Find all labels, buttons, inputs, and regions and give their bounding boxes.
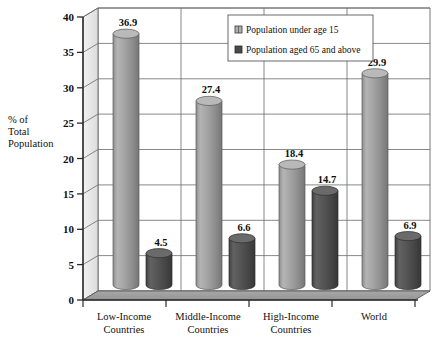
category-label-line: Countries (188, 324, 229, 335)
legend-label: Population aged 65 and above (246, 45, 361, 55)
bar-value-label: 6.9 (403, 220, 416, 231)
bar-under15-world[interactable] (362, 69, 388, 290)
bar-under15-low-income[interactable] (113, 29, 139, 290)
bar-over65-world[interactable] (395, 232, 421, 290)
bar-value-label: 4.5 (154, 237, 167, 248)
bar-over65-high-income[interactable] (312, 186, 338, 289)
legend-item-over-65[interactable]: Population aged 65 and above (235, 45, 361, 55)
bar-value-label: 14.7 (318, 174, 336, 185)
y-tick-label: 40 (63, 11, 75, 23)
y-tick-label: 0 (69, 294, 75, 306)
category-label-line: Middle-Income (175, 311, 241, 322)
category-label-line: Countries (271, 324, 312, 335)
y-tick-label: 30 (63, 82, 75, 94)
bar-under15-high-income[interactable] (279, 160, 305, 290)
bar-value-label: 27.4 (202, 84, 221, 95)
bar-value-label: 36.9 (119, 17, 137, 28)
legend: Population under age 15 Population aged … (228, 15, 373, 61)
category-label-line: Countries (104, 324, 145, 335)
population-age-structure-bar-chart: 40 35 30 25 20 15 10 5 0 % of Total Popu… (0, 0, 437, 338)
y-tick-label: 5 (69, 259, 75, 271)
y-tick-label: 25 (63, 117, 75, 129)
category-label-line: World (361, 311, 388, 322)
y-tick-label: 15 (63, 188, 75, 200)
legend-label: Population under age 15 (246, 25, 339, 35)
y-tick-label: 10 (63, 223, 75, 235)
y-axis-title-line: % of (8, 114, 29, 125)
bar-value-label: 18.4 (285, 148, 304, 159)
bar-over65-middle-income[interactable] (229, 234, 255, 290)
y-axis-title-line: Population (8, 138, 54, 149)
bar-under15-middle-income[interactable] (196, 96, 222, 289)
y-axis-title-line: Total (8, 126, 30, 137)
y-tick-label: 20 (63, 153, 75, 165)
chart-svg: 40 35 30 25 20 15 10 5 0 % of Total Popu… (0, 0, 437, 338)
legend-item-under-15[interactable]: Population under age 15 (235, 25, 339, 35)
category-label-line: High-Income (263, 311, 319, 322)
dark-gray-swatch-icon (235, 46, 242, 53)
plot-floor (83, 291, 430, 300)
bar-value-label: 6.6 (237, 222, 250, 233)
category-label-line: Low-Income (97, 311, 152, 322)
y-tick-label: 35 (63, 46, 75, 58)
x-category-label-world: World (361, 311, 388, 322)
bar-over65-low-income[interactable] (146, 249, 172, 290)
